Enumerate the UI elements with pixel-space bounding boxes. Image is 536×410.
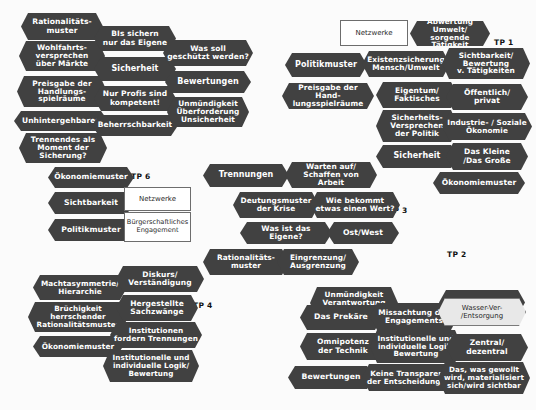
node-tp5-sicherheit[interactable]: Sicherheit <box>94 57 176 81</box>
node-tp5-preisgabe-handlungsspielraeume[interactable]: Preisgabe derHandlungs-spielräume <box>17 76 107 107</box>
node-tp5-beherrschbarkeit[interactable]: Beherrschbarkeit <box>92 115 178 136</box>
node-tp3-was-ist-das-eigene[interactable]: Was ist das Eigene? <box>240 222 332 244</box>
node-tp5-was-soll-geschuetzt[interactable]: Was sollgeschützt werden? <box>163 40 253 66</box>
node-tp4-institutionen-fordern-trennungen[interactable]: Institutionenfordern Trennungen <box>110 322 202 348</box>
box-tp6-buergerschaftliches-engagement[interactable]: BürgerschaftlichesEngagement <box>124 212 191 242</box>
box-tp1-netzwerke[interactable]: Netzwerke <box>340 20 408 46</box>
node-tp6-sichtbarkeit[interactable]: Sichtbarkeit <box>48 192 134 214</box>
node-tp2-das-prekaere[interactable]: Das Prekäre <box>300 305 382 330</box>
node-tp1-oekonomiemuster[interactable]: Ökonomiemuster <box>433 172 525 194</box>
node-tp3-warten-schaffen-arbeit[interactable]: Warten auf/Schaffen von Arbeit <box>285 162 377 188</box>
group-label-tp2: TP 2 <box>447 250 467 259</box>
group-label-tp1: TP 1 <box>494 38 514 47</box>
node-tp1-existenzsicherung[interactable]: ExistenzsicherungMensch/Umwelt <box>362 51 450 77</box>
node-tp4-bruechigkeit-rationalitaetsmuster[interactable]: BrüchigkeitherrschenderRationalitätsmust… <box>28 302 128 332</box>
node-tp2-wasser-ver-entsorgung[interactable]: Wasser-Ver-/Entsorgung <box>438 298 526 326</box>
node-tp3-wie-bekommt-wert[interactable]: Wie bekommtetwas einen Wert? <box>310 192 400 218</box>
diagram-canvas: TP 5 Rationalitäts-muster Wohlfahrts-ver… <box>0 0 536 410</box>
node-tp4-diskurs-verstaendigung[interactable]: Diskurs/Verständigung <box>116 266 204 292</box>
node-tp2-bewertungen[interactable]: Bewertungen <box>288 366 374 389</box>
node-tp4-hergestellte-sachzwaenge[interactable]: HergestellteSachzwänge <box>116 295 198 321</box>
node-tp1-das-kleine-das-grosse[interactable]: Das Kleine/Das Große <box>446 143 528 170</box>
node-tp4-machtasymmetrie-hierarchie[interactable]: Machtasymmetrie/Hierarchie <box>33 275 127 300</box>
node-tp6-politikmuster[interactable]: Politikmuster <box>48 219 134 241</box>
group-label-tp6: TP 6 <box>131 172 151 181</box>
node-tp4-institutionelle-individuelle-logik[interactable]: Institutionelle undindividuelle Logik/Be… <box>103 350 199 382</box>
node-tp3-eingrenzung-ausgrenzung[interactable]: Eingrenzung/Ausgrenzung <box>277 249 359 275</box>
node-tp3-ost-west[interactable]: Ost/West <box>327 222 399 244</box>
node-tp1-politikmuster[interactable]: Politikmuster <box>285 53 367 77</box>
node-tp5-wohlfahrtsversprechen[interactable]: Wohlfahrts-versprechenüber Märkte <box>19 41 105 71</box>
node-tp6-oekonomiemuster[interactable]: Ökonomiemuster <box>48 167 134 188</box>
node-tp5-trennendes-moment-sicherung[interactable]: Trennendes alsMoment derSicherung? <box>19 133 107 163</box>
node-tp1-preisgabe-handlungsspielraeume[interactable]: Preisgabe der Hand-lungsspielräume <box>282 83 374 109</box>
node-tp5-rationalitaetsmuster[interactable]: Rationalitäts-muster <box>21 13 103 40</box>
node-tp3-trennungen[interactable]: Trennungen <box>203 164 289 187</box>
node-tp5-bewertungen[interactable]: Bewertungen <box>165 71 251 93</box>
node-tp5-unmuendigkeit-ueberforderung[interactable]: UnmündigkeitÜberforderungUnsicherheit <box>167 97 249 127</box>
box-tp6-netzwerke[interactable]: Netzwerke <box>124 187 191 211</box>
node-tp5-bis-sichern-eigene[interactable]: BIs sichernnur das Eigene <box>94 26 176 51</box>
node-tp1-oeffentlich-privat[interactable]: Öffentlich/privat <box>446 84 528 110</box>
node-tp3-deutungsmuster-krise[interactable]: Deutungsmusterder Krise <box>233 192 319 218</box>
node-tp1-eigentum-faktisches[interactable]: Eigentum/Faktisches <box>376 82 458 108</box>
node-tp3-rationalitaetsmuster[interactable]: Rationalitäts-muster <box>203 249 289 275</box>
node-tp1-abwertung-umwelt[interactable]: Abwertung Umwelt/sorgende Tätigkeit <box>410 21 490 46</box>
node-tp1-sicherheit[interactable]: Sicherheit <box>376 145 458 168</box>
node-tp2-zentral-dezentral[interactable]: Zentral/dezentral <box>446 334 528 361</box>
node-tp5-nur-profis-kompetent[interactable]: Nur Profis sindkompetent! <box>94 86 176 111</box>
node-tp1-industrie-soziale-oekonomie[interactable]: Industrie- / SozialeÖkonomie <box>442 113 532 140</box>
node-tp2-das-was-gewollt-wird[interactable]: Das, was gewolltwird, materialisiertsich… <box>438 362 530 394</box>
node-tp1-sichtbarkeit-bewertung[interactable]: Sichtbarkeit/Bewertungv. Tätigkeiten <box>442 48 530 79</box>
